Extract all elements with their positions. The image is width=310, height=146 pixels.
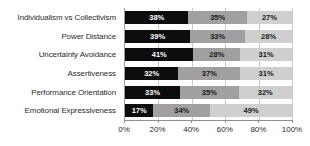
bar-row: 39%33%28% [125, 27, 292, 46]
x-axis-ticks [124, 120, 292, 124]
bar-segment-label: 35% [210, 13, 225, 22]
x-axis-tick-label: 0% [118, 125, 130, 134]
category-label: Uncertainty Avoidance [0, 45, 120, 64]
x-axis-tick [225, 120, 226, 123]
stacked-bar: 33%35%32% [125, 86, 292, 99]
stacked-bar: 17%34%49% [125, 104, 292, 117]
bar-row: 33%35%32% [125, 83, 292, 102]
stacked-bar-chart: Individualism vs CollectivismPower Dista… [0, 0, 310, 146]
bar-segment-label: 41% [152, 50, 167, 59]
bar-rows: 38%35%27%39%33%28%41%28%31%32%37%31%33%3… [125, 8, 292, 120]
bar-segment-label: 39% [150, 32, 165, 41]
bar-row: 32%37%31% [125, 64, 292, 83]
gridline [292, 8, 293, 120]
stacked-bar: 39%33%28% [125, 30, 292, 43]
bar-row: 41%28%31% [125, 45, 292, 64]
bar-segment-label: 34% [174, 106, 189, 115]
category-label: Individualism vs Collectivism [0, 8, 120, 27]
bar-segment: 27% [247, 11, 292, 24]
plot-area: 38%35%27%39%33%28%41%28%31%32%37%31%33%3… [124, 8, 292, 120]
x-axis-tick-label: 20% [150, 125, 166, 134]
category-label: Power Distance [0, 27, 120, 46]
x-axis-tick-label: 40% [183, 125, 199, 134]
bar-segment: 49% [210, 104, 292, 117]
bar-segment-label: 31% [259, 69, 274, 78]
x-axis-tick-labels: 0%20%40%60%80%100% [124, 125, 292, 139]
bar-segment-label: 28% [209, 50, 224, 59]
bar-row: 17%34%49% [125, 101, 292, 120]
bar-segment: 35% [180, 86, 238, 99]
category-label: Assertiveness [0, 64, 120, 83]
bar-segment-label: 31% [259, 50, 274, 59]
bar-segment-label: 33% [210, 32, 225, 41]
x-axis-tick-label: 80% [250, 125, 266, 134]
bar-row: 38%35%27% [125, 8, 292, 27]
x-axis-tick [158, 120, 159, 123]
bar-segment: 35% [188, 11, 246, 24]
bar-segment-label: 17% [132, 106, 147, 115]
bar-segment-label: 27% [262, 13, 277, 22]
x-axis-tick [191, 120, 192, 123]
bar-segment: 37% [178, 67, 240, 80]
bar-segment-label: 28% [261, 32, 276, 41]
category-label: Performance Orientation [0, 83, 120, 102]
bar-segment: 38% [125, 11, 188, 24]
bar-segment: 28% [245, 30, 292, 43]
bar-segment-label: 32% [258, 88, 273, 97]
bar-segment: 33% [190, 30, 245, 43]
category-axis-labels: Individualism vs CollectivismPower Dista… [0, 8, 120, 120]
bar-segment: 33% [125, 86, 180, 99]
bar-segment: 31% [240, 48, 292, 61]
bar-segment-label: 38% [149, 13, 164, 22]
bar-segment: 41% [125, 48, 193, 61]
bar-segment: 32% [125, 67, 178, 80]
bar-segment: 39% [125, 30, 190, 43]
bar-segment: 17% [125, 104, 153, 117]
bar-segment-label: 32% [144, 69, 159, 78]
bar-segment-label: 33% [145, 88, 160, 97]
stacked-bar: 38%35%27% [125, 11, 292, 24]
x-axis-tick-label: 100% [282, 125, 302, 134]
x-axis-tick [124, 120, 125, 123]
x-axis-tick [292, 120, 293, 123]
stacked-bar: 32%37%31% [125, 67, 292, 80]
bar-segment: 32% [239, 86, 292, 99]
bar-segment: 34% [153, 104, 210, 117]
x-axis-tick [258, 120, 259, 123]
x-axis-tick-label: 60% [217, 125, 233, 134]
stacked-bar: 41%28%31% [125, 48, 292, 61]
bar-segment-label: 37% [202, 69, 217, 78]
bar-segment: 31% [240, 67, 292, 80]
bar-segment-label: 49% [244, 106, 259, 115]
category-label: Emotional Expressiveness [0, 101, 120, 120]
bar-segment-label: 35% [202, 88, 217, 97]
bar-segment: 28% [193, 48, 240, 61]
